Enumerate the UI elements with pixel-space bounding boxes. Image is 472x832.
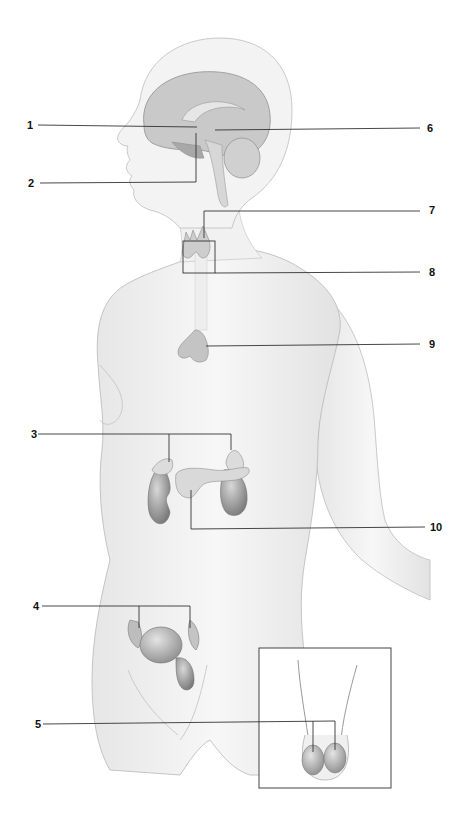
cerebellum [224, 138, 260, 178]
label-4: 4 [33, 601, 39, 612]
trachea [195, 250, 207, 330]
label-3: 3 [31, 429, 37, 440]
label-9: 9 [429, 339, 435, 350]
label-5: 5 [35, 719, 41, 730]
male-reproductive-inset [259, 648, 391, 788]
label-6: 6 [427, 123, 433, 134]
endocrine-diagram [0, 0, 472, 832]
uterus [140, 627, 182, 663]
label-2: 2 [28, 178, 34, 189]
label-10: 10 [430, 522, 442, 533]
label-1: 1 [27, 120, 33, 131]
label-8: 8 [429, 267, 435, 278]
label-7: 7 [429, 205, 435, 216]
